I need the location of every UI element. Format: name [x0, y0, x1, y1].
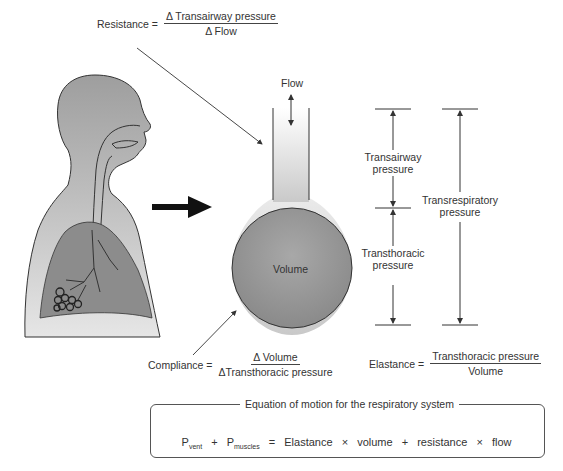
resistance-numerator: Δ Transairway pressure: [164, 10, 278, 24]
transrespiratory-pressure-label: Transrespiratory pressure: [418, 194, 502, 218]
elastance-denominator: Volume: [468, 364, 503, 377]
resistance-formula: Resistance = Δ Transairway pressure Δ Fl…: [97, 10, 278, 37]
compliance-denominator: ΔTransthoracic pressure: [219, 365, 333, 378]
compliance-label: Compliance =: [148, 359, 213, 371]
equation-title: Equation of motion for the respiratory s…: [240, 398, 459, 410]
volume-label: Volume: [273, 263, 308, 275]
human-torso-figure: [25, 75, 160, 337]
transairway-pressure-label: Transairway pressure: [361, 151, 425, 175]
transthoracic-pressure-label: Transthoracic pressure: [355, 247, 431, 271]
resistance-label: Resistance =: [97, 18, 158, 30]
resistance-denominator: Δ Flow: [205, 24, 237, 37]
compliance-formula: Compliance = Δ Volume ΔTransthoracic pre…: [148, 351, 333, 378]
elastance-formula: Elastance = Transthoracic pressure Volum…: [369, 350, 541, 377]
elastance-label: Elastance =: [369, 358, 424, 370]
flow-label: Flow: [281, 77, 303, 89]
equation-of-motion: Pvent + Pmuscles = Elastance × volume + …: [150, 436, 543, 450]
compliance-numerator: Δ Volume: [251, 351, 299, 365]
elastance-numerator: Transthoracic pressure: [430, 350, 541, 364]
resistance-pointer: [137, 48, 262, 144]
transition-arrow: [152, 196, 212, 218]
compliance-pointer: [193, 311, 236, 355]
lung-model: [232, 95, 352, 335]
